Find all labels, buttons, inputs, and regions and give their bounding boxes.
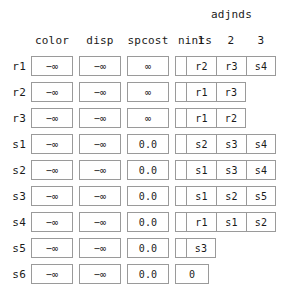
cell-spcost: ∞ bbox=[127, 108, 169, 128]
adjnds-group: r1r3 bbox=[186, 82, 246, 102]
table-row: r3−∞−∞∞2r1r2 bbox=[0, 108, 289, 134]
cell-adjnds: s3 bbox=[216, 134, 246, 154]
cell-nints: 0 bbox=[175, 264, 209, 284]
cell-adjnds: s1 bbox=[186, 186, 216, 206]
cell-disp: −∞ bbox=[79, 264, 121, 284]
adjnds-group: r2r3s4 bbox=[186, 56, 276, 76]
row-label: s3 bbox=[0, 186, 26, 208]
cell-adjnds: r3 bbox=[216, 82, 246, 102]
adjnds-group: r1r2 bbox=[186, 108, 246, 128]
column-header-adjnds-1: 1 bbox=[186, 34, 216, 48]
cell-spcost: 0.0 bbox=[127, 264, 169, 284]
adjnds-group: r1s1s2 bbox=[186, 212, 276, 232]
column-header-row: color disp spcost nints 1 2 3 bbox=[0, 34, 289, 48]
cell-spcost: 0.0 bbox=[127, 160, 169, 180]
node-table-figure: adjnds color disp spcost nints 1 2 3 r1−… bbox=[0, 0, 289, 304]
cell-spcost: ∞ bbox=[127, 56, 169, 76]
table-row: s6−∞−∞0.00 bbox=[0, 264, 289, 290]
cell-adjnds: r2 bbox=[216, 108, 246, 128]
column-header-disp: disp bbox=[77, 34, 123, 48]
row-label: s5 bbox=[0, 238, 26, 260]
row-label: s4 bbox=[0, 212, 26, 234]
cell-disp: −∞ bbox=[79, 212, 121, 232]
adjnds-group: s1s2s5 bbox=[186, 186, 276, 206]
cell-adjnds: s3 bbox=[216, 160, 246, 180]
cell-spcost: 0.0 bbox=[127, 212, 169, 232]
row-label: s1 bbox=[0, 134, 26, 156]
cell-color: −∞ bbox=[31, 186, 73, 206]
table-row: s1−∞−∞0.03s2s3s4 bbox=[0, 134, 289, 160]
cell-adjnds: s2 bbox=[216, 186, 246, 206]
cell-color: −∞ bbox=[31, 264, 73, 284]
cell-adjnds: r1 bbox=[186, 108, 216, 128]
adjnds-group: s1s3s4 bbox=[186, 160, 276, 180]
adjnds-group: s3 bbox=[186, 238, 216, 258]
cell-disp: −∞ bbox=[79, 82, 121, 102]
cell-adjnds: s4 bbox=[246, 56, 276, 76]
cell-adjnds: s2 bbox=[246, 212, 276, 232]
column-header-spcost: spcost bbox=[122, 34, 174, 48]
cell-adjnds: s2 bbox=[186, 134, 216, 154]
cell-adjnds: s5 bbox=[246, 186, 276, 206]
table-row: s4−∞−∞0.03r1s1s2 bbox=[0, 212, 289, 238]
cell-disp: −∞ bbox=[79, 186, 121, 206]
cell-spcost: ∞ bbox=[127, 82, 169, 102]
cell-spcost: 0.0 bbox=[127, 186, 169, 206]
row-label: s2 bbox=[0, 160, 26, 182]
cell-adjnds: s1 bbox=[186, 160, 216, 180]
cell-spcost: 0.0 bbox=[127, 134, 169, 154]
cell-color: −∞ bbox=[31, 238, 73, 258]
cell-adjnds: s4 bbox=[246, 134, 276, 154]
row-label: r1 bbox=[0, 56, 26, 78]
cell-disp: −∞ bbox=[79, 56, 121, 76]
adjnds-group: s2s3s4 bbox=[186, 134, 276, 154]
row-label: r2 bbox=[0, 82, 26, 104]
table-row: s2−∞−∞0.03s1s3s4 bbox=[0, 160, 289, 186]
cell-disp: −∞ bbox=[79, 108, 121, 128]
cell-adjnds: s3 bbox=[186, 238, 216, 258]
column-header-color: color bbox=[29, 34, 75, 48]
cell-color: −∞ bbox=[31, 108, 73, 128]
cell-adjnds: r3 bbox=[216, 56, 246, 76]
column-header-adjnds-2: 2 bbox=[216, 34, 246, 48]
adjnds-group-header: adjnds bbox=[186, 8, 277, 21]
cell-adjnds: r2 bbox=[186, 56, 216, 76]
cell-disp: −∞ bbox=[79, 238, 121, 258]
cell-adjnds: s4 bbox=[246, 160, 276, 180]
table-row: r2−∞−∞∞2r1r3 bbox=[0, 82, 289, 108]
table-body: r1−∞−∞∞3r2r3s4r2−∞−∞∞2r1r3r3−∞−∞∞2r1r2s1… bbox=[0, 56, 289, 290]
cell-disp: −∞ bbox=[79, 160, 121, 180]
cell-adjnds: r1 bbox=[186, 82, 216, 102]
column-header-adjnds-3: 3 bbox=[246, 34, 276, 48]
row-label: s6 bbox=[0, 264, 26, 286]
cell-adjnds: r1 bbox=[186, 212, 216, 232]
table-row: s3−∞−∞0.03s1s2s5 bbox=[0, 186, 289, 212]
cell-color: −∞ bbox=[31, 134, 73, 154]
cell-spcost: 0.0 bbox=[127, 238, 169, 258]
cell-color: −∞ bbox=[31, 212, 73, 232]
cell-disp: −∞ bbox=[79, 134, 121, 154]
cell-color: −∞ bbox=[31, 160, 73, 180]
table-row: s5−∞−∞0.01s3 bbox=[0, 238, 289, 264]
row-label: r3 bbox=[0, 108, 26, 130]
cell-adjnds: s1 bbox=[216, 212, 246, 232]
cell-color: −∞ bbox=[31, 56, 73, 76]
table-row: r1−∞−∞∞3r2r3s4 bbox=[0, 56, 289, 82]
cell-color: −∞ bbox=[31, 82, 73, 102]
